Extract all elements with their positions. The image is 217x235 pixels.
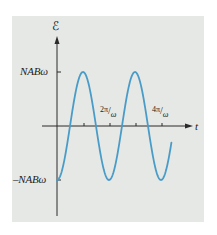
x-tick-numerator: 4π (152, 105, 160, 114)
x-tick-label-4pi-over-omega: 4π/ω (152, 106, 168, 119)
y-max-label: NABω (20, 66, 48, 77)
x-tick-numerator: 2π (100, 105, 108, 114)
y-axis-title: ℰ (52, 20, 59, 32)
x-tick-denominator: ω (111, 110, 117, 119)
x-axis-arrow-icon (185, 124, 193, 129)
x-axis-title: t (195, 121, 198, 132)
y-min-label: –NABω (13, 174, 46, 185)
x-tick-label-2pi-over-omega: 2π/ω (100, 106, 116, 119)
x-tick-denominator: ω (163, 110, 169, 119)
y-axis-arrow-icon (55, 36, 60, 44)
